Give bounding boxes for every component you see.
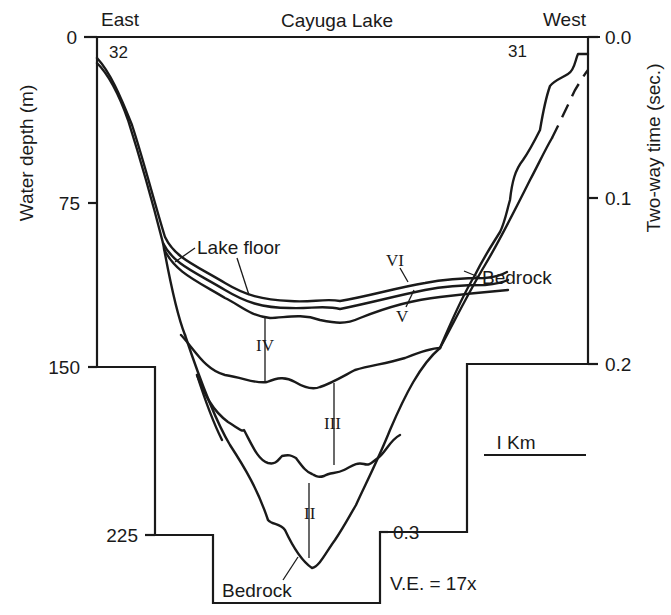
right-tick-label-0.0: 0.0 xyxy=(605,27,631,48)
bedrock-right-label: Bedrock xyxy=(482,267,552,288)
direction-west-label: West xyxy=(543,9,587,30)
unit-ii-label: II xyxy=(304,504,316,523)
unit-vi-label: VI xyxy=(386,251,404,270)
horizon-ii-top xyxy=(197,375,222,440)
direction-east-label: East xyxy=(101,9,140,30)
station-32-label: 32 xyxy=(109,43,128,62)
vertical-exaggeration-label: V.E. = 17x xyxy=(390,573,477,594)
bedrock-bottom-label: Bedrock xyxy=(222,580,292,601)
left-axis-title: Water depth (m) xyxy=(16,85,37,222)
lake-floor-label: Lake floor xyxy=(197,237,281,258)
left-tick-label-225: 225 xyxy=(106,525,138,546)
left-tick-label-150: 150 xyxy=(48,357,80,378)
lake-floor-horizon xyxy=(97,58,507,301)
right-tick-label-0.3: 0.3 xyxy=(393,522,419,543)
bedrock-bottom-leader xyxy=(283,557,298,580)
unit-iii-label: III xyxy=(324,414,341,433)
right-tick-label-0.2: 0.2 xyxy=(605,354,631,375)
axis-frame xyxy=(97,37,588,603)
scale-bar-label: I Km xyxy=(496,432,535,453)
unit-v-label: V xyxy=(396,307,409,326)
horizon-iv-base xyxy=(181,335,440,388)
left-tick-label-0: 0 xyxy=(66,27,77,48)
horizon-iii-base xyxy=(197,375,400,477)
right-axis-title: Two-way time (sec.) xyxy=(643,64,664,233)
station-31-label: 31 xyxy=(508,42,527,61)
figure-title: Cayuga Lake xyxy=(281,10,393,31)
west-bedrock-line xyxy=(440,138,552,348)
left-tick-label-75: 75 xyxy=(59,193,80,214)
right-tick-label-0.1: 0.1 xyxy=(605,188,631,209)
horizon-vi-base xyxy=(97,63,508,309)
unit-vi-leader xyxy=(400,268,408,282)
seismic-cross-section-figure: Cayuga Lake East West 32 31 0 75 150 225… xyxy=(0,0,671,615)
